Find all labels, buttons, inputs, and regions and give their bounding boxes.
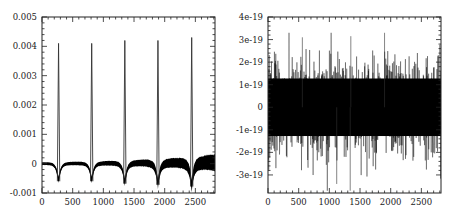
y-tick-label: -3e-19: [236, 170, 263, 180]
noise-line: [268, 33, 441, 191]
x-tick-label: 2500: [411, 197, 433, 207]
y-tick-label: -1e-19: [236, 125, 263, 135]
y-tick-label: 3e-19: [239, 35, 263, 45]
right-plot: 05001000150020002500-3e-19-2e-19-1e-1901…: [236, 12, 441, 207]
x-tick-label: 2000: [380, 197, 402, 207]
x-tick-label: 0: [39, 197, 44, 207]
right-series: [268, 33, 441, 191]
spike: [124, 40, 126, 183]
x-tick-label: 500: [65, 197, 81, 207]
y-tick-label: 0: [32, 159, 37, 169]
y-tick-label: 2e-19: [239, 57, 263, 67]
y-tick-label: 0.001: [13, 129, 37, 139]
y-tick-label: 0.002: [13, 100, 37, 110]
chart-canvas: 05001000150020002500-0.00100.0010.0020.0…: [0, 0, 454, 219]
x-tick-label: 0: [265, 197, 270, 207]
spike: [157, 40, 159, 184]
x-tick-label: 500: [291, 197, 307, 207]
left-plot: 05001000150020002500-0.00100.0010.0020.0…: [10, 12, 215, 207]
spike: [90, 43, 92, 181]
y-tick-label: 4e-19: [239, 12, 263, 22]
spike: [57, 43, 59, 181]
y-tick-label: 1e-19: [239, 80, 263, 90]
y-tick-label: 0.005: [13, 12, 37, 22]
x-tick-label: 1500: [349, 197, 371, 207]
y-tick-label: 0: [258, 102, 263, 112]
y-tick-label: -2e-19: [236, 147, 263, 157]
x-tick-label: 1000: [93, 197, 115, 207]
noise-band: [42, 154, 215, 192]
x-tick-label: 1000: [319, 197, 341, 207]
spike: [190, 38, 192, 187]
y-tick-label: -0.001: [10, 188, 37, 198]
y-tick-label: 0.003: [13, 71, 37, 81]
left-series: [42, 38, 215, 193]
x-tick-label: 2000: [154, 197, 176, 207]
y-tick-label: 0.004: [13, 41, 37, 51]
x-tick-label: 2500: [185, 197, 207, 207]
x-tick-label: 1500: [123, 197, 145, 207]
